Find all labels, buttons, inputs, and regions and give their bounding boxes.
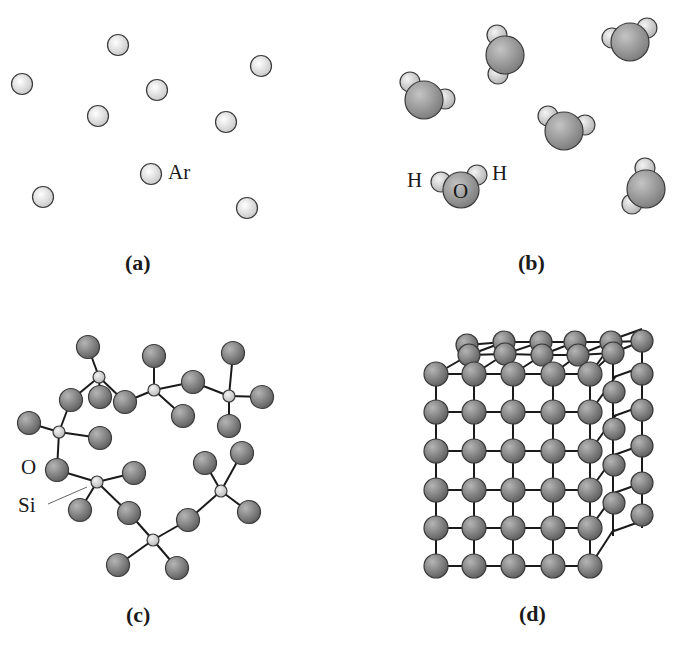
lattice-atom: [424, 362, 448, 386]
oxygen-atom: [166, 557, 189, 580]
lattice-atom: [501, 554, 525, 578]
caption-b: (b): [518, 250, 545, 275]
lattice-atom: [603, 454, 625, 476]
caption-c: (c): [126, 602, 150, 627]
lattice-atom: [501, 516, 525, 540]
lattice-atom: [578, 554, 602, 578]
argon-atom: [33, 187, 54, 208]
panel-a-argon-gas: [12, 35, 272, 219]
lattice-atom: [603, 418, 625, 440]
oxygen-atom: [405, 81, 443, 119]
oxygen-atom: [172, 405, 195, 428]
lattice-atom: [462, 516, 486, 540]
lattice-atom: [603, 492, 625, 514]
lattice-atom: [501, 478, 525, 502]
lattice-atom: [462, 400, 486, 424]
lattice-atom: [541, 400, 565, 424]
oxygen-atom: [77, 336, 100, 359]
lattice-atom: [631, 330, 653, 352]
oxygen-atom: [60, 389, 83, 412]
lattice-atom: [501, 400, 525, 424]
oxygen-atom: [627, 170, 665, 208]
hydrogen-right-label: H: [492, 161, 507, 185]
oxygen-atom: [89, 427, 112, 450]
lattice-atom: [541, 554, 565, 578]
lattice-atom: [578, 439, 602, 463]
silicon-atom: [215, 485, 227, 497]
oxygen-atom: [123, 462, 146, 485]
oxygen-atom: [231, 442, 254, 465]
lattice-atom: [462, 554, 486, 578]
oxygen-atom: [107, 554, 130, 577]
oxygen-atom: [46, 459, 69, 482]
lattice-atom: [631, 504, 653, 526]
argon-atom: [237, 198, 258, 219]
oxygen-atom: [251, 386, 274, 409]
caption-d: (d): [519, 601, 546, 626]
oxygen-atom: [238, 501, 261, 524]
lattice-atom: [603, 381, 625, 403]
lattice-atom: [602, 342, 624, 364]
silicon-atom: [91, 476, 103, 488]
lattice-atom: [424, 400, 448, 424]
oxygen-atom: [611, 23, 649, 61]
argon-atom: [251, 56, 272, 77]
oxygen-atom: [218, 415, 241, 438]
panel-b-water-liquid: [400, 18, 665, 214]
oxygen-atom: [114, 391, 137, 414]
oxygen-atom: [486, 36, 524, 74]
lattice-atom: [424, 478, 448, 502]
panel-d-crystal-lattice: [424, 329, 653, 578]
lattice-atom: [424, 516, 448, 540]
oxygen-label: O: [453, 179, 468, 203]
argon-atom: [216, 112, 237, 133]
lattice-atom: [578, 362, 602, 386]
silicon-atom: [93, 371, 105, 383]
lattice-atom: [501, 362, 525, 386]
caption-a: (a): [125, 250, 151, 275]
lattice-atom: [578, 516, 602, 540]
oxygen-label-c: O: [21, 455, 36, 479]
lattice-atom: [462, 362, 486, 386]
argon-atom: [12, 74, 33, 95]
lattice-atom: [631, 472, 653, 494]
lattice-atom: [541, 362, 565, 386]
argon-atom: [108, 35, 129, 56]
oxygen-atom: [143, 345, 166, 368]
lattice-atom: [501, 439, 525, 463]
lattice-atom: [578, 478, 602, 502]
oxygen-atom: [182, 371, 205, 394]
lattice-atom: [424, 554, 448, 578]
lattice-atom: [631, 435, 653, 457]
argon-label: Ar: [168, 160, 190, 184]
oxygen-atom: [118, 502, 141, 525]
silicon-atom: [53, 426, 65, 438]
silicon-label: Si: [18, 493, 36, 517]
lattice-atom: [578, 400, 602, 424]
argon-atom: [141, 164, 162, 185]
lattice-atom: [541, 439, 565, 463]
argon-atom: [88, 106, 109, 127]
lattice-atom: [631, 399, 653, 421]
lattice-atom: [631, 363, 653, 385]
oxygen-atom: [18, 412, 41, 435]
oxygen-atom: [89, 386, 112, 409]
oxygen-atom: [177, 509, 200, 532]
oxygen-atom: [222, 342, 245, 365]
oxygen-atom: [194, 452, 217, 475]
silicon-atom: [147, 534, 159, 546]
lattice-atom: [541, 516, 565, 540]
argon-atom: [147, 80, 168, 101]
lattice-atom: [462, 478, 486, 502]
lattice-atom: [541, 478, 565, 502]
silicon-atom: [223, 390, 235, 402]
lattice-atom: [462, 439, 486, 463]
silicon-atom: [148, 384, 160, 396]
oxygen-atom: [545, 112, 583, 150]
panel-c-amorphous-silica: [18, 336, 274, 580]
states-of-matter-diagram: Ar (a) H O H (b) O Si (c) (d): [0, 0, 676, 646]
hydrogen-left-label: H: [407, 168, 422, 192]
oxygen-atom: [69, 499, 92, 522]
lattice-atom: [424, 439, 448, 463]
